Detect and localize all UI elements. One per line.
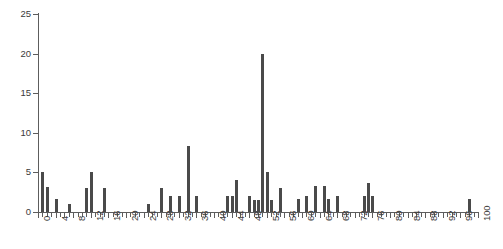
x-axis-tick-minor — [474, 213, 475, 217]
x-axis-tick-major — [355, 213, 356, 218]
bar — [363, 196, 366, 212]
bar — [371, 196, 374, 212]
bar — [261, 54, 264, 212]
bar — [169, 196, 172, 212]
bar — [257, 200, 260, 212]
x-axis-tick-major — [390, 213, 391, 218]
bar — [235, 180, 238, 212]
x-axis-tick-minor — [122, 213, 123, 217]
x-axis-tick-major — [372, 213, 373, 218]
x-axis-tick-label: 84 — [412, 211, 422, 221]
bar — [266, 172, 269, 212]
x-axis-tick-minor — [298, 213, 299, 217]
bar — [248, 196, 251, 212]
bar — [305, 196, 308, 212]
x-axis-tick-label: 32 — [183, 211, 193, 221]
bar — [85, 188, 88, 212]
x-axis-tick-label: 12 — [95, 211, 105, 221]
x-axis-tick-major — [337, 213, 338, 218]
x-axis-tick-label: 96 — [464, 211, 474, 221]
x-axis-tick-label: 68 — [341, 211, 351, 221]
x-axis-tick-major — [443, 213, 444, 218]
x-axis-tick-label: 52 — [271, 211, 281, 221]
x-axis-tick-label: 72 — [359, 211, 369, 221]
x-axis-tick-major — [38, 213, 39, 218]
x-axis-tick-major — [460, 213, 461, 218]
x-axis-tick-major — [249, 213, 250, 218]
x-axis-tick-major — [56, 213, 57, 218]
x-axis-tick-label: 0 — [42, 216, 52, 221]
bar-chart: 0510152025 04812162024283236404448525660… — [0, 0, 503, 249]
x-axis-tick-major — [214, 213, 215, 218]
bar — [314, 186, 317, 212]
x-axis-tick-label: 16 — [112, 211, 122, 221]
x-axis-tick-major — [179, 213, 180, 218]
bar — [226, 196, 229, 212]
x-axis-tick-label: 44 — [236, 211, 246, 221]
x-axis-tick-major — [320, 213, 321, 218]
bar — [178, 196, 181, 212]
bar — [195, 196, 198, 212]
bars-layer — [0, 0, 503, 212]
bar — [327, 199, 330, 212]
x-axis-tick-major — [91, 213, 92, 218]
bar — [147, 204, 150, 212]
bar — [187, 146, 190, 212]
bar — [468, 199, 471, 212]
bar — [297, 199, 300, 212]
x-axis-tick-minor — [210, 213, 211, 217]
bar — [46, 187, 49, 212]
x-axis-tick-label: 36 — [200, 211, 210, 221]
x-axis-tick-label: 64 — [324, 211, 334, 221]
x-axis-tick-label: 76 — [376, 211, 386, 221]
x-axis-tick-major — [302, 213, 303, 218]
bar — [231, 196, 234, 212]
x-axis-tick-major — [425, 213, 426, 218]
x-axis-tick-label: 8 — [77, 216, 87, 221]
x-axis-tick-label: 4 — [60, 216, 70, 221]
x-axis-tick-major — [408, 213, 409, 218]
x-axis-tick-label: 28 — [165, 211, 175, 221]
x-axis-tick-major — [478, 213, 479, 218]
bar — [323, 186, 326, 212]
x-axis-tick-major — [196, 213, 197, 218]
x-axis-tick-major — [73, 213, 74, 218]
x-axis-tick-label: 24 — [148, 211, 158, 221]
x-axis-tick-major — [144, 213, 145, 218]
x-axis-tick-label: 80 — [394, 211, 404, 221]
bar — [55, 199, 58, 212]
x-axis-tick-label: 48 — [253, 211, 263, 221]
bar — [279, 188, 282, 212]
x-axis-tick-major — [284, 213, 285, 218]
bar — [367, 183, 370, 212]
x-axis-tick-major — [161, 213, 162, 218]
x-axis-tick-label: 56 — [288, 211, 298, 221]
x-axis-tick-label: 20 — [130, 211, 140, 221]
x-axis-tick-label: 60 — [306, 211, 316, 221]
bar — [103, 188, 106, 212]
x-axis-tick-major — [232, 213, 233, 218]
bar — [253, 200, 256, 212]
bar — [68, 204, 71, 212]
bar — [90, 172, 93, 212]
bar — [41, 172, 44, 212]
x-axis-tick-major — [267, 213, 268, 218]
bar — [270, 200, 273, 212]
x-axis-tick-minor — [386, 213, 387, 217]
x-axis-tick-major — [108, 213, 109, 218]
x-axis-tick-label: 92 — [447, 211, 457, 221]
bar — [160, 188, 163, 212]
bar — [336, 196, 339, 212]
x-axis-tick-label: 88 — [429, 211, 439, 221]
x-axis-tick-label: 40 — [218, 211, 228, 221]
x-axis-tick-major — [126, 213, 127, 218]
